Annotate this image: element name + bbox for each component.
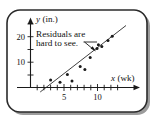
figure-container: y(in.) x(wk) 20 10 5 10 Residuals are ha…: [0, 0, 154, 119]
y-axis-var: y: [35, 14, 40, 24]
data-point: [96, 47, 99, 50]
x-axis-unit: (wk): [118, 73, 135, 83]
data-point: [107, 39, 110, 42]
data-point: [89, 56, 92, 59]
y-tick-label-20: 20: [17, 32, 26, 42]
y-tick-label-10: 10: [17, 57, 26, 67]
data-point: [71, 80, 74, 83]
x-axis-var: x: [110, 73, 115, 83]
data-point: [100, 45, 103, 48]
data-point: [79, 65, 82, 68]
x-tick-label-5: 5: [62, 92, 66, 102]
x-tick-label-10: 10: [93, 92, 102, 102]
data-point: [83, 68, 86, 71]
y-axis-label: y(in.): [35, 14, 58, 24]
data-point: [97, 43, 100, 46]
x-axis-label: x(wk): [110, 73, 135, 83]
callout-line-2: hard to see.: [36, 38, 78, 48]
data-point: [66, 73, 69, 76]
figure-frame: [7, 10, 147, 112]
callout-line-1: Residuals are: [36, 29, 85, 39]
y-axis-unit: (in.): [43, 14, 58, 24]
data-point: [59, 81, 62, 84]
data-point: [49, 79, 52, 82]
scatter-plot-figure: y(in.) x(wk) 20 10 5 10 Residuals are ha…: [0, 0, 154, 119]
data-point: [111, 35, 114, 38]
